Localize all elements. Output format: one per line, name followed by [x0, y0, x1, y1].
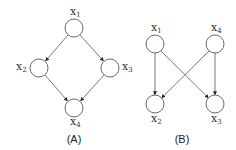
- label-b-x4: x4: [211, 21, 222, 35]
- label-b-x1: x1: [151, 21, 162, 35]
- label-b-x2: x2: [151, 112, 162, 126]
- diagram-b: x1 x4 x2 x3 (B): [146, 21, 224, 145]
- label-a-x4: x4: [70, 115, 81, 129]
- edge-a-x1-x2: [46, 35, 69, 61]
- node-b-x1: [146, 35, 164, 53]
- node-b-x4: [206, 35, 224, 53]
- label-a-x3: x3: [122, 60, 133, 74]
- node-b-x2: [146, 95, 164, 113]
- caption-a: (A): [67, 133, 82, 145]
- label-a-x2: x2: [16, 60, 27, 74]
- node-a-x2: [30, 59, 48, 77]
- node-a-x3: [101, 59, 119, 77]
- figure: x1 x2 x3 x4 (A) x1 x4 x2 x3 (B): [0, 0, 236, 150]
- label-a-x1: x1: [70, 5, 81, 19]
- node-a-x1: [65, 19, 83, 37]
- edge-a-x2-x4: [45, 75, 68, 101]
- caption-b: (B): [175, 133, 190, 145]
- edge-a-x3-x4: [81, 75, 105, 101]
- node-b-x3: [206, 95, 224, 113]
- label-b-x3: x3: [211, 112, 222, 126]
- diagram-a: x1 x2 x3 x4 (A): [16, 5, 133, 145]
- edge-a-x1-x3: [80, 35, 104, 61]
